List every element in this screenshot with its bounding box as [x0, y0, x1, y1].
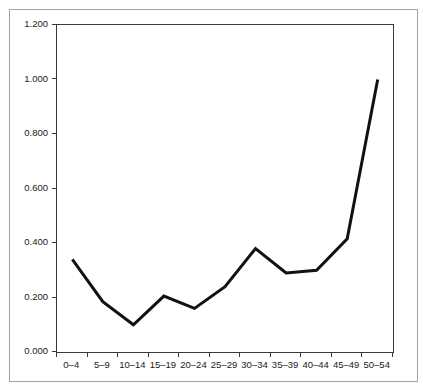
x-axis-tick-label: 0–4 [63, 360, 79, 370]
x-axis-tick-mark [331, 353, 332, 357]
x-axis-tick-mark [239, 353, 240, 357]
data-line [72, 80, 377, 325]
x-axis-tick-mark [178, 353, 179, 357]
x-axis-tick-mark [209, 353, 210, 357]
x-axis-tick-label: 5–9 [94, 360, 110, 370]
x-axis-tick-mark [87, 353, 88, 357]
y-axis-tick-label: 1.000 [14, 74, 48, 84]
x-axis-tick-mark [270, 353, 271, 357]
y-axis-tick-label: 0.400 [14, 237, 48, 247]
x-axis-tick-mark [56, 353, 57, 357]
figure-border: 0.0000.2000.4000.6000.8001.0001.200 0–45… [9, 9, 418, 382]
x-axis-tick-label: 10–14 [119, 360, 145, 370]
x-axis-tick-label: 50–54 [364, 360, 390, 370]
plot-area [56, 24, 394, 353]
x-axis-tick-mark [300, 353, 301, 357]
x-axis-tick-mark [392, 353, 393, 357]
x-axis-tick-label: 15–19 [150, 360, 176, 370]
line-series-svg [57, 25, 393, 352]
x-axis-tick-label: 25–29 [211, 360, 237, 370]
y-axis-tick-label: 0.600 [14, 183, 48, 193]
x-axis-tick-mark [361, 353, 362, 357]
x-axis-tick-label: 40–44 [302, 360, 328, 370]
x-axis-tick-label: 45–49 [333, 360, 359, 370]
x-axis-tick-mark [117, 353, 118, 357]
chart-figure: 0.0000.2000.4000.6000.8001.0001.200 0–45… [0, 0, 423, 391]
y-axis-tick-label: 0.000 [14, 346, 48, 356]
x-axis-tick-label: 20–24 [180, 360, 206, 370]
x-axis-tick-label: 30–34 [241, 360, 267, 370]
x-axis-tick-label: 35–39 [272, 360, 298, 370]
y-axis-tick-label: 0.200 [14, 292, 48, 302]
x-axis-tick-mark [148, 353, 149, 357]
y-axis-tick-label: 0.800 [14, 128, 48, 138]
y-axis-tick-label: 1.200 [14, 19, 48, 29]
